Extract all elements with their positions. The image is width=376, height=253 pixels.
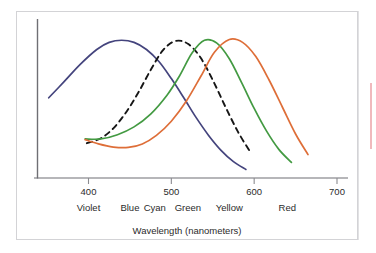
band-label-green: Green	[175, 202, 201, 213]
band-label-red: Red	[279, 202, 296, 213]
tick-number-400: 400	[81, 186, 97, 197]
curve-green-cone-response	[85, 40, 291, 163]
curve-rod-response-dashed	[87, 41, 250, 152]
tick-number-700: 700	[329, 186, 345, 197]
spectral-sensitivity-chart: 400500600700 VioletBlueCyanGreenYellowRe…	[0, 0, 376, 253]
band-label-yellow: Yellow	[216, 202, 243, 213]
curve-blue-cone-response	[49, 40, 246, 169]
x-tick-labels: 400500600700	[81, 186, 345, 197]
figure-root: 400500600700 VioletBlueCyanGreenYellowRe…	[0, 0, 376, 253]
axes-group	[34, 19, 348, 184]
x-axis-ticks	[89, 178, 338, 184]
band-label-violet: Violet	[77, 202, 101, 213]
curves-group	[49, 39, 308, 170]
curve-red-cone-response	[85, 39, 308, 155]
tick-number-600: 600	[246, 186, 262, 197]
band-label-cyan: Cyan	[144, 202, 166, 213]
band-label-blue: Blue	[120, 202, 139, 213]
tick-number-500: 500	[163, 186, 179, 197]
x-band-labels: VioletBlueCyanGreenYellowRed	[77, 202, 296, 213]
x-axis-title: Wavelength (nanometers)	[133, 225, 242, 236]
